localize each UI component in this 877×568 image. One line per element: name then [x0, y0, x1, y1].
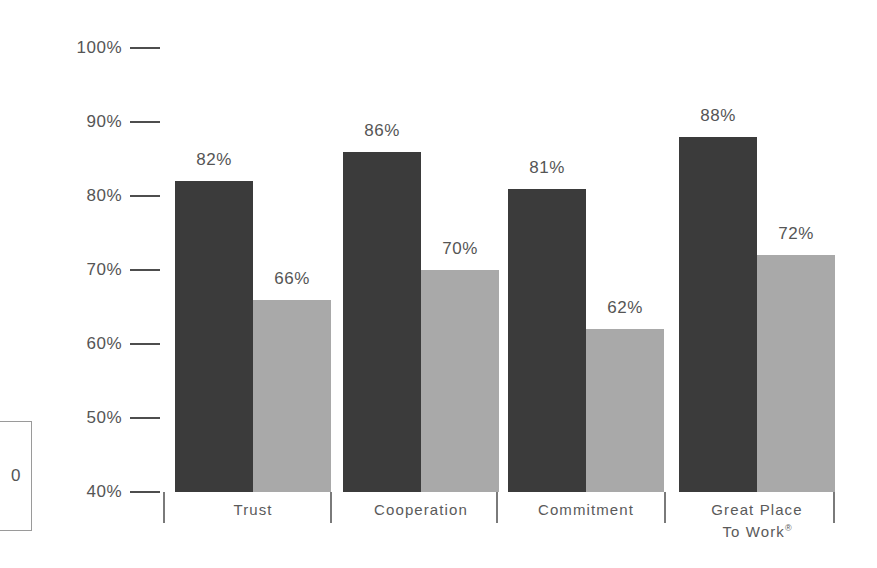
group-separator-tick	[330, 492, 332, 523]
bar-light	[757, 255, 835, 492]
category-label-line: Great Place	[645, 500, 869, 519]
bar-light	[421, 270, 499, 492]
category-label-line: To Work®	[645, 519, 869, 541]
category-label: Great PlaceTo Work®	[645, 500, 869, 541]
bar-value-label: 88%	[673, 106, 763, 126]
bar-value-label: 81%	[502, 158, 592, 178]
bar-light	[253, 300, 331, 492]
bar-dark	[679, 137, 757, 492]
bar-light	[586, 329, 664, 492]
bar-value-label: 86%	[337, 121, 427, 141]
bar-value-label: 82%	[169, 150, 259, 170]
bar-chart: 0 100%90%80%70%60%50%40% 82%66%Trust86%7…	[0, 0, 877, 568]
group-separator-tick	[833, 492, 835, 523]
bar-value-label: 62%	[580, 298, 670, 318]
bar-value-label: 70%	[415, 239, 505, 259]
bar-value-label: 66%	[247, 269, 337, 289]
group-separator-tick	[664, 492, 666, 523]
group-separator-tick	[163, 492, 165, 523]
bar-value-label: 72%	[751, 224, 841, 244]
bar-dark	[175, 181, 253, 492]
group-separator-tick	[496, 492, 498, 523]
plot-area: 82%66%Trust86%70%Cooperation81%62%Commit…	[0, 0, 877, 568]
bar-dark	[508, 189, 586, 492]
bar-dark	[343, 152, 421, 492]
